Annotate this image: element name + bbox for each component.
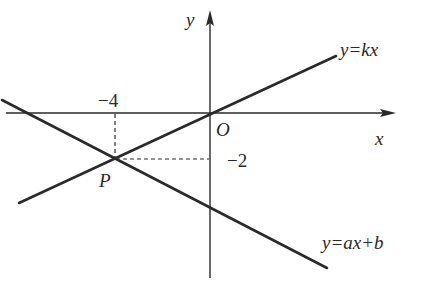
origin-label: O xyxy=(216,119,230,140)
y-tick-label: −2 xyxy=(227,150,247,171)
x-axis xyxy=(6,109,396,117)
y-axis xyxy=(206,10,214,278)
x-axis-label: x xyxy=(374,128,384,149)
line-axb-label: y=ax+b xyxy=(320,232,384,253)
line-kx-label: y=kx xyxy=(338,39,379,60)
point-p-label: P xyxy=(98,170,111,191)
coordinate-diagram: y x O −4 −2 P y=kx y=ax+b xyxy=(0,0,425,293)
x-tick-label: −4 xyxy=(98,90,119,111)
y-axis-label: y xyxy=(184,9,195,30)
line-y-ax-plus-b xyxy=(2,100,327,268)
line-y-kx xyxy=(19,56,336,203)
